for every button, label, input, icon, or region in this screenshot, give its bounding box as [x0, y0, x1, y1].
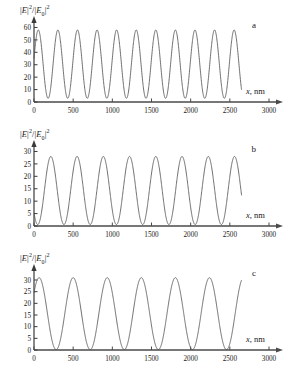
- svg-text:0: 0: [27, 223, 31, 231]
- curve-c: [34, 278, 242, 350]
- svg-text:3000: 3000: [262, 355, 277, 363]
- axes-b: 050010001500200025003000051015202530: [24, 140, 283, 239]
- svg-text:1500: 1500: [144, 231, 159, 239]
- svg-text:0: 0: [32, 355, 36, 363]
- svg-text:40: 40: [24, 49, 32, 57]
- svg-text:20: 20: [24, 74, 32, 82]
- plot-area-a: 0500100015002000250030000102030405060: [0, 0, 286, 124]
- panel-a: |E|2/|E0|2 a x, nm 050010001500200025003…: [0, 0, 286, 124]
- svg-text:10: 10: [24, 198, 32, 206]
- svg-text:20: 20: [24, 300, 32, 308]
- svg-text:50: 50: [24, 37, 32, 45]
- svg-text:10: 10: [24, 323, 32, 331]
- svg-text:30: 30: [24, 277, 32, 285]
- svg-text:2000: 2000: [183, 231, 198, 239]
- svg-text:60: 60: [24, 24, 32, 32]
- svg-text:15: 15: [24, 185, 32, 193]
- svg-text:25: 25: [24, 288, 32, 296]
- svg-text:5: 5: [27, 210, 31, 218]
- plot-area-b: 050010001500200025003000051015202530: [0, 124, 286, 248]
- svg-text:1000: 1000: [105, 355, 120, 363]
- curve-b: [34, 156, 242, 224]
- svg-text:25: 25: [24, 161, 32, 169]
- svg-text:15: 15: [24, 312, 32, 320]
- svg-text:1000: 1000: [105, 231, 120, 239]
- svg-text:1500: 1500: [144, 355, 159, 363]
- svg-text:20: 20: [24, 173, 32, 181]
- svg-text:30: 30: [24, 61, 32, 69]
- plot-area-c: 050010001500200025003000051015202530: [0, 248, 286, 372]
- svg-text:0: 0: [27, 347, 31, 355]
- axes-c: 050010001500200025003000051015202530: [24, 264, 283, 363]
- svg-text:10: 10: [24, 86, 32, 94]
- svg-text:500: 500: [68, 355, 79, 363]
- svg-text:2000: 2000: [183, 107, 198, 115]
- axes-a: 0500100015002000250030000102030405060: [24, 16, 283, 115]
- svg-text:0: 0: [32, 107, 36, 115]
- svg-text:2500: 2500: [223, 231, 238, 239]
- svg-text:1500: 1500: [144, 107, 159, 115]
- svg-text:500: 500: [68, 107, 79, 115]
- svg-text:30: 30: [24, 148, 32, 156]
- panel-b: |E|2/|E0|2 b x, nm 050010001500200025003…: [0, 124, 286, 248]
- panel-c: |E|2/|E0|2 c x, nm 050010001500200025003…: [0, 248, 286, 372]
- svg-text:2500: 2500: [223, 107, 238, 115]
- svg-text:3000: 3000: [262, 107, 277, 115]
- curve-a: [34, 30, 242, 98]
- svg-text:5: 5: [27, 335, 31, 343]
- svg-text:3000: 3000: [262, 231, 277, 239]
- svg-text:1000: 1000: [105, 107, 120, 115]
- svg-text:0: 0: [32, 231, 36, 239]
- svg-text:2000: 2000: [183, 355, 198, 363]
- figure-root: |E|2/|E0|2 a x, nm 050010001500200025003…: [0, 0, 286, 372]
- svg-text:0: 0: [27, 99, 31, 107]
- svg-text:500: 500: [68, 231, 79, 239]
- svg-text:2500: 2500: [223, 355, 238, 363]
